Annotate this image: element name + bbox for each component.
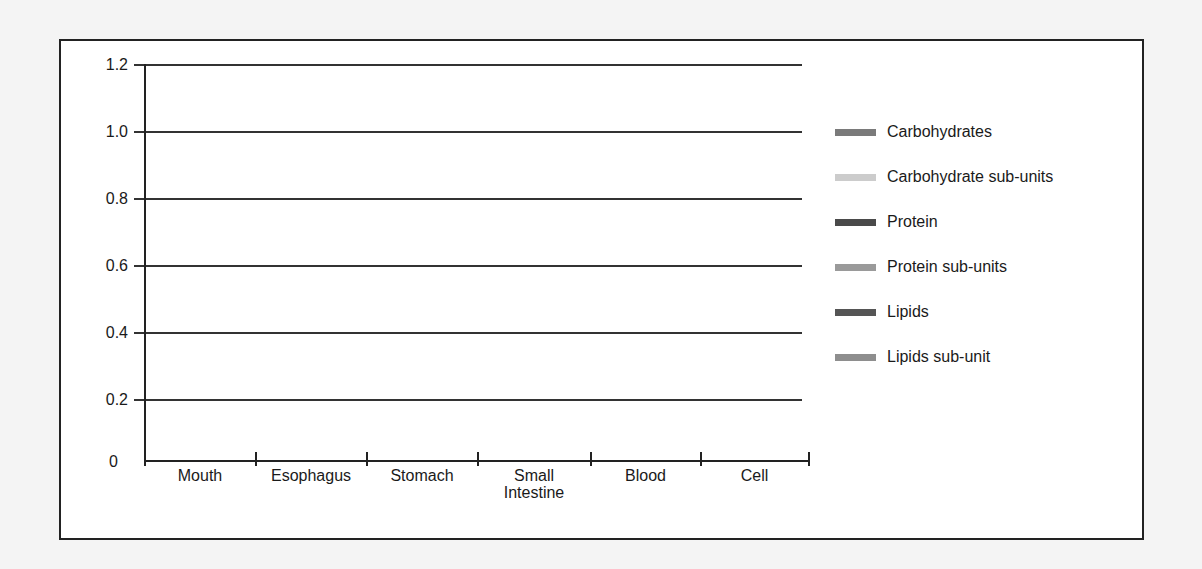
legend-item-lipids-sub-unit: Lipids sub-unit bbox=[835, 347, 990, 367]
x-tick bbox=[590, 452, 592, 466]
x-label-line: Cell bbox=[701, 467, 808, 484]
x-label-line: Small bbox=[478, 467, 590, 484]
gridline bbox=[134, 64, 802, 66]
legend-label: Lipids bbox=[887, 303, 929, 321]
gridline bbox=[134, 399, 802, 401]
legend-label: Carbohydrate sub-units bbox=[887, 168, 1053, 186]
x-category-label: Blood bbox=[591, 467, 700, 484]
y-tick-label: 1.2 bbox=[88, 56, 128, 74]
x-category-label: Cell bbox=[701, 467, 808, 484]
y-tick-label: 0.8 bbox=[88, 190, 128, 208]
x-tick bbox=[808, 452, 810, 466]
legend-swatch bbox=[835, 129, 876, 136]
y-tick-label: 1.0 bbox=[88, 123, 128, 141]
x-tick bbox=[255, 452, 257, 466]
y-axis bbox=[144, 64, 146, 462]
gridline bbox=[134, 332, 802, 334]
legend-item-carbohydrates: Carbohydrates bbox=[835, 122, 992, 142]
x-tick bbox=[366, 452, 368, 466]
x-category-label: Stomach bbox=[367, 467, 477, 484]
legend-label: Protein bbox=[887, 213, 938, 231]
x-label-line: Mouth bbox=[145, 467, 255, 484]
legend-swatch bbox=[835, 264, 876, 271]
legend-swatch bbox=[835, 354, 876, 361]
x-category-label: Esophagus bbox=[256, 467, 366, 484]
legend-swatch bbox=[835, 174, 876, 181]
legend-swatch bbox=[835, 309, 876, 316]
gridline bbox=[134, 198, 802, 200]
legend-item-protein-sub-units: Protein sub-units bbox=[835, 257, 1007, 277]
x-label-line: Esophagus bbox=[256, 467, 366, 484]
legend-item-lipids: Lipids bbox=[835, 302, 929, 322]
x-label-line: Blood bbox=[591, 467, 700, 484]
x-tick bbox=[144, 452, 146, 466]
legend-item-protein: Protein bbox=[835, 212, 938, 232]
x-tick bbox=[700, 452, 702, 466]
legend-label: Lipids sub-unit bbox=[887, 348, 990, 366]
legend-label: Protein sub-units bbox=[887, 258, 1007, 276]
y-tick-label: 0 bbox=[78, 453, 118, 471]
gridline bbox=[134, 131, 802, 133]
x-category-label: Mouth bbox=[145, 467, 255, 484]
x-label-line: Intestine bbox=[478, 484, 590, 501]
x-label-line: Stomach bbox=[367, 467, 477, 484]
x-tick bbox=[477, 452, 479, 466]
legend-label: Carbohydrates bbox=[887, 123, 992, 141]
y-tick-label: 0.4 bbox=[88, 324, 128, 342]
gridline bbox=[134, 265, 802, 267]
x-category-label: Small Intestine bbox=[478, 467, 590, 501]
legend-swatch bbox=[835, 219, 876, 226]
y-tick-label: 0.6 bbox=[88, 257, 128, 275]
y-tick-label: 0.2 bbox=[88, 391, 128, 409]
legend-item-carbohydrate-sub-units: Carbohydrate sub-units bbox=[835, 167, 1053, 187]
chart-frame bbox=[59, 39, 1144, 540]
